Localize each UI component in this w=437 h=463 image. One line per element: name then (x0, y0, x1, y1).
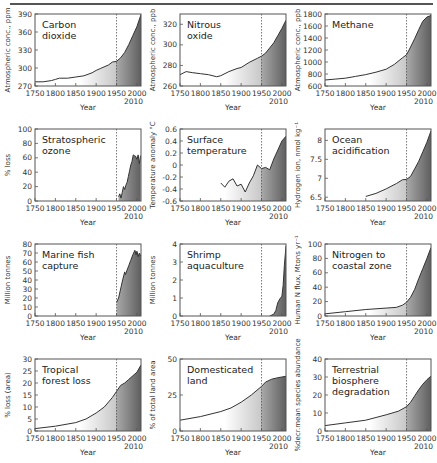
y-axis-label: % loss (area) (4, 372, 12, 418)
panel-title: acidification (332, 145, 390, 156)
x-tick-label: 1800 (191, 204, 210, 213)
y-tick-label: 40 (22, 168, 32, 177)
panel-terrestrial-biosphere-degradation: 1750180018501900195020002010Year01020304… (294, 338, 437, 457)
x-end-label: 2010 (414, 97, 433, 106)
y-tick-label: 4 (172, 240, 177, 249)
x-tick-label: 1800 (336, 319, 355, 328)
panel-title: Ocean (332, 134, 362, 145)
panel-title: dioxide (42, 30, 76, 41)
x-end-label: 2010 (414, 212, 433, 221)
y-tick-label: 390 (18, 10, 33, 19)
y-tick-label: 60 (312, 268, 322, 277)
x-tick-label: 1850 (66, 434, 85, 443)
y-tick-label: 10 (22, 403, 32, 412)
x-tick-label: 1800 (336, 434, 355, 443)
x-tick-label: 1800 (336, 204, 355, 213)
y-tick-label: 320 (163, 20, 178, 29)
panel-marine-fish-capture: 1750180018501900195020002010Year01020304… (4, 240, 147, 343)
area-fill (366, 131, 431, 201)
x-tick-label: 1850 (356, 319, 375, 328)
x-tick-label: 1850 (356, 204, 375, 213)
panel-methane: 1750180018501900195020002010Year60080010… (294, 8, 437, 112)
x-tick-label: 1800 (191, 89, 210, 98)
x-tick-label: 1900 (232, 89, 251, 98)
y-tick-label: 1 (172, 294, 177, 303)
x-end-label: 2010 (124, 212, 143, 221)
x-axis-label: Year (79, 448, 97, 457)
y-tick-label: -0.2 (162, 173, 177, 182)
y-tick-label: 15 (22, 391, 32, 400)
y-tick-label: 100 (18, 125, 33, 134)
x-tick-label: 1850 (211, 89, 230, 98)
y-tick-label: 0 (27, 197, 32, 206)
x-axis-label: Year (224, 448, 242, 457)
y-tick-label: 30 (22, 355, 32, 364)
y-tick-label: 20 (22, 182, 32, 191)
panel-title: temperature (187, 145, 247, 156)
y-tick-label: 300 (18, 64, 33, 73)
y-tick-label: 6.5 (310, 193, 322, 202)
y-tick-label: 1400 (303, 34, 322, 43)
y-tick-label: 50 (22, 267, 32, 276)
panel-title: Tropical (41, 364, 78, 375)
panel-title: land (187, 375, 208, 386)
y-tick-label: 0.6 (165, 125, 177, 134)
panel-surface-temperature: 1750180018501900195020002010Year-0.6-0.4… (149, 121, 292, 227)
panel-nitrogen-to-coastal-zone: 1750180018501900195020002010Year02040608… (294, 235, 437, 342)
y-tick-label: 0.4 (165, 137, 177, 146)
panel-title: degradation (332, 386, 390, 397)
x-tick-label: 1800 (336, 89, 355, 98)
x-tick-label: 1850 (356, 89, 375, 98)
y-tick-label: 1600 (303, 22, 322, 31)
y-tick-label: 0 (317, 427, 322, 436)
y-tick-label: 3 (172, 258, 177, 267)
y-tick-label: 0 (317, 312, 322, 321)
panel-title: capture (42, 260, 79, 271)
y-tick-label: 25 (22, 367, 32, 376)
y-tick-label: 260 (163, 82, 178, 91)
panel-carbon-dioxide: 1750180018501900195020002010Year27030033… (4, 7, 147, 112)
y-axis-label: Atmospheric conc., ppm (4, 7, 12, 92)
x-tick-label: 1900 (377, 434, 396, 443)
panel-title: Marine fish (42, 249, 94, 260)
x-tick-label: 1800 (191, 434, 210, 443)
y-tick-label: 8 (317, 136, 322, 145)
panel-nitrous-oxide: 1750180018501900195020002010Year26028030… (149, 8, 292, 112)
panel-title: Surface (187, 134, 223, 145)
panel-title: Nitrogen to (332, 249, 386, 260)
y-tick-label: 60 (22, 258, 32, 267)
panel-title: Nitrous (187, 19, 221, 30)
y-tick-label: 50 (167, 355, 177, 364)
y-tick-label: 600 (308, 82, 323, 91)
y-tick-label: 10 (312, 409, 322, 418)
x-axis-label: Year (79, 103, 97, 112)
y-tick-label: 0 (172, 312, 177, 321)
panel-shrimp-aquaculture: 1750180018501900195020002010Year01234Mil… (149, 240, 292, 343)
y-tick-label: 270 (18, 82, 33, 91)
y-axis-label: Human N flux, Mtons yr⁻¹ (294, 235, 302, 324)
y-tick-label: 20 (22, 294, 32, 303)
x-tick-label: 1900 (232, 319, 251, 328)
y-tick-label: 7 (317, 174, 322, 183)
x-tick-label: 1800 (46, 319, 65, 328)
earth-system-trends-figure: 1750180018501900195020002010Year27030033… (0, 0, 437, 463)
x-tick-label: 1800 (46, 89, 65, 98)
y-axis-label: Million tonnes (4, 255, 12, 304)
y-axis-label: % loss (4, 153, 12, 176)
y-tick-label: 1800 (303, 10, 322, 19)
y-tick-label: 2 (172, 276, 177, 285)
x-tick-label: 1750 (315, 204, 334, 213)
y-tick-label: 300 (163, 40, 178, 49)
y-tick-label: 7.5 (310, 155, 322, 164)
y-tick-label: 20 (22, 379, 32, 388)
y-tick-label: -0.4 (162, 185, 177, 194)
y-tick-label: 80 (312, 254, 322, 263)
y-tick-label: 0 (172, 161, 177, 170)
y-tick-label: 1000 (303, 58, 322, 67)
y-axis-label: Atmospheric conc., ppb (294, 8, 302, 91)
panel-title: ozone (42, 145, 71, 156)
y-tick-label: 80 (22, 240, 32, 249)
y-tick-label: 100 (308, 240, 323, 249)
panel-title: coastal zone (332, 260, 392, 271)
y-tick-label: 0 (172, 427, 177, 436)
